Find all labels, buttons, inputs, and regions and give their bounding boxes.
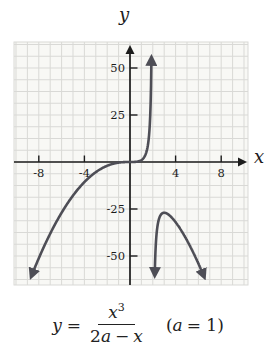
- y-tick-label: 25: [110, 108, 125, 122]
- caption-formula: y = x3 2a−x (a= 1): [0, 297, 276, 353]
- y-tick-label: -50: [106, 249, 125, 263]
- formula-parameter-note: (a= 1): [166, 315, 224, 335]
- x-tick-label: -8: [33, 166, 44, 180]
- plot-area: [14, 42, 248, 285]
- graph-canvas: -8-4485025-25-50: [0, 0, 276, 296]
- formula-equals: =: [67, 315, 81, 335]
- formula-numerator: x3: [98, 303, 135, 325]
- y-axis-label: y: [119, 6, 129, 24]
- y-tick-label: 50: [110, 61, 125, 75]
- formula-fraction: x3 2a−x: [90, 303, 143, 346]
- y-tick-label: -25: [106, 202, 125, 216]
- formula-denominator: 2a−x: [90, 325, 143, 347]
- formula-lhs: y: [52, 315, 62, 335]
- x-tick-label: 4: [172, 166, 179, 180]
- x-axis-label: x: [254, 148, 264, 166]
- x-tick-label: 8: [218, 166, 225, 180]
